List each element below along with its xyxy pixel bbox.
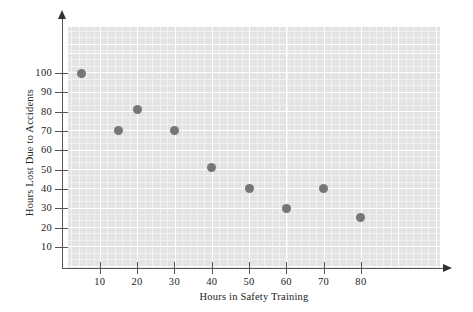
y-axis-tick [55,150,68,151]
y-axis-tick [55,92,68,93]
y-axis-arrow-icon [58,10,66,19]
x-axis-tick-label: 70 [309,276,339,287]
y-axis-tick [55,170,68,171]
x-axis-tick-label: 30 [159,276,189,287]
y-axis-tick [55,208,68,209]
y-axis-tick [55,247,68,248]
plot-area-grid [68,27,440,268]
x-axis-tick-label: 10 [85,276,115,287]
scatter-plot-figure: 1020304050607080901001020304050607080 Ho… [0,0,473,312]
x-axis-line [62,268,444,269]
data-point [282,204,291,213]
y-axis-tick [55,73,68,74]
x-axis-tick-label: 80 [346,276,376,287]
x-axis-tick [137,262,138,274]
x-axis-tick [361,262,362,274]
y-axis-tick [55,189,68,190]
data-point [77,69,86,78]
x-axis-tick [286,262,287,274]
x-axis-tick [324,262,325,274]
x-axis-tick-label: 40 [197,276,227,287]
x-axis-tick [100,262,101,274]
x-axis-tick [249,262,250,274]
x-axis-tick [212,262,213,274]
x-axis-tick-label: 20 [122,276,152,287]
y-axis-tick [55,131,68,132]
x-axis-title: Hours in Safety Training [68,291,440,302]
y-axis-tick [55,112,68,113]
x-axis-tick [174,262,175,274]
x-axis-arrow-icon [443,264,452,272]
y-axis-tick-label-text: 10 [4,241,52,252]
y-axis-tick-label: 10 [0,241,52,253]
data-point [245,184,254,193]
x-axis-tick-label: 50 [234,276,264,287]
y-axis-line [62,18,63,269]
y-axis-tick [55,228,68,229]
x-axis-tick-label: 60 [271,276,301,287]
y-axis-title: Hours Lost Due to Accidents [24,63,35,243]
data-point [133,105,142,114]
